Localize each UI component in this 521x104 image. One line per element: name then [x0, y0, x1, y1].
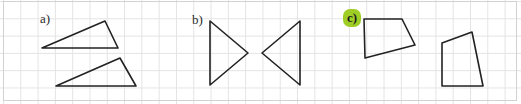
shape-a-triangle-2: [56, 58, 136, 86]
label-a: a): [40, 12, 50, 25]
label-c: c): [343, 9, 361, 27]
shape-c-quad-right: [442, 32, 483, 86]
figures-layer: [0, 0, 521, 104]
label-b: b): [192, 13, 203, 26]
shape-c-quad-left: [364, 19, 415, 58]
shape-b-triangle-right: [262, 21, 300, 85]
shape-group: [42, 19, 483, 86]
shape-b-triangle-left: [210, 21, 248, 85]
shape-a-triangle-1: [42, 21, 118, 48]
geometry-worksheet: a)b)c): [0, 0, 521, 104]
